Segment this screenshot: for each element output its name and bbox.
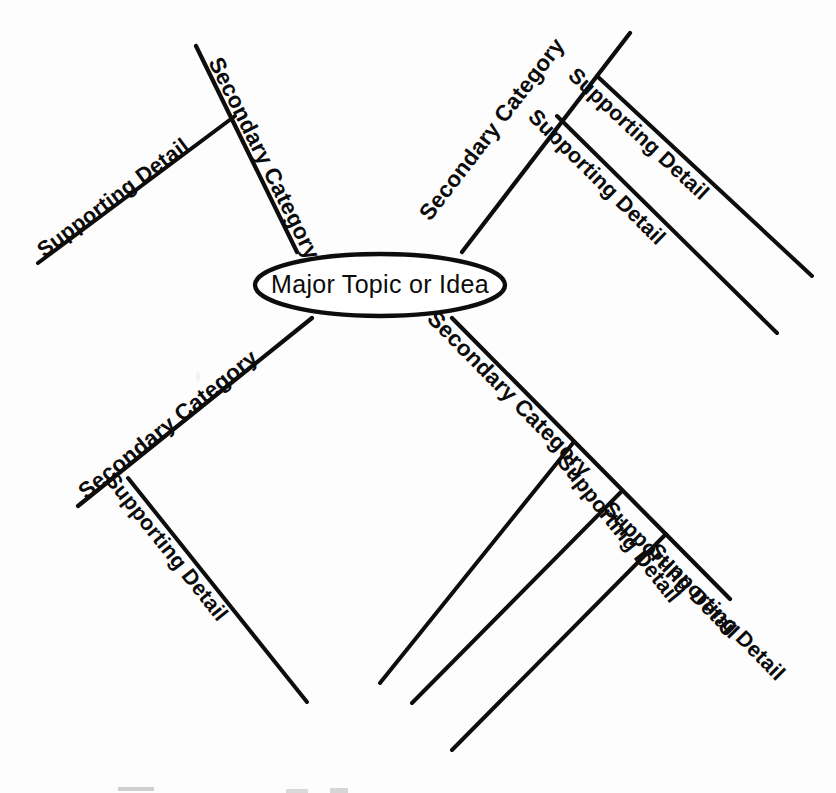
mindmap-svg: Secondary Category Supporting Detail Sec… bbox=[0, 0, 836, 793]
detail-ll-1-label: Supporting Detail bbox=[100, 468, 233, 626]
detail-ll-1-line bbox=[128, 478, 307, 702]
branch-lower-right[interactable]: Secondary Category Supporting Detail Sup… bbox=[380, 306, 790, 750]
branch-upper-left-label: Secondary Category bbox=[204, 53, 326, 263]
branch-upper-left[interactable]: Secondary Category Supporting Detail bbox=[33, 46, 326, 264]
detail-lr-3-line bbox=[452, 534, 666, 750]
mindmap-canvas: Secondary Category Supporting Detail Sec… bbox=[0, 0, 836, 793]
branch-lower-left-label: Secondary Category bbox=[73, 345, 262, 504]
central-topic-label: Major Topic or Idea bbox=[271, 270, 489, 298]
detail-lr-1-line bbox=[380, 443, 573, 683]
detail-lr-2-line bbox=[412, 492, 621, 703]
branch-lower-left[interactable]: Secondary Category Supporting Detail bbox=[73, 318, 312, 702]
detail-lr-3-label: Supporting Detail bbox=[644, 539, 789, 686]
detail-ur-1-label: Supporting Detail bbox=[564, 63, 714, 205]
detail-ul-1-label: Supporting Detail bbox=[33, 134, 194, 262]
central-topic-node[interactable]: Major Topic or Idea bbox=[255, 254, 505, 316]
detail-ur-1-line bbox=[597, 76, 812, 276]
